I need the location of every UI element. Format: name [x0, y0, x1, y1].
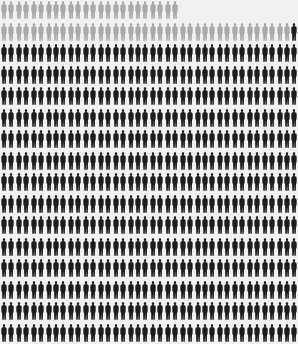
black-person-icon: [83, 238, 89, 256]
black-person-icon: [120, 324, 126, 342]
black-person-icon: [165, 238, 171, 256]
black-person-icon: [150, 66, 156, 84]
black-person-icon: [195, 66, 201, 84]
black-person-icon: [105, 259, 111, 277]
black-person-icon: [172, 109, 178, 127]
black-person-icon: [46, 216, 52, 234]
black-person-icon: [38, 173, 44, 191]
black-person-icon: [247, 130, 253, 148]
black-person-icon: [113, 109, 119, 127]
black-person-icon: [53, 238, 59, 256]
black-person-icon: [232, 238, 238, 256]
black-person-icon: [16, 302, 22, 320]
black-person-icon: [277, 152, 283, 170]
black-person-icon: [31, 281, 37, 299]
black-person-icon: [142, 216, 148, 234]
gray-person-icon: [232, 23, 238, 41]
gray-person-icon: [60, 23, 66, 41]
black-person-icon: [239, 324, 245, 342]
gray-person-icon: [68, 23, 74, 41]
black-person-icon: [46, 195, 52, 213]
black-person-icon: [277, 195, 283, 213]
black-person-icon: [165, 152, 171, 170]
black-person-icon: [150, 281, 156, 299]
black-person-icon: [269, 130, 275, 148]
black-person-icon: [75, 216, 81, 234]
black-person-icon: [142, 195, 148, 213]
black-person-icon: [38, 87, 44, 105]
black-person-icon: [224, 281, 230, 299]
black-person-icon: [142, 238, 148, 256]
gray-person-icon: [224, 23, 230, 41]
black-person-icon: [23, 281, 29, 299]
black-person-icon: [217, 238, 223, 256]
black-person-icon: [157, 281, 163, 299]
black-person-icon: [1, 195, 7, 213]
black-person-icon: [202, 216, 208, 234]
gray-person-icon: [38, 23, 44, 41]
black-person-icon: [195, 281, 201, 299]
black-person-icon: [16, 281, 22, 299]
black-person-icon: [1, 109, 7, 127]
gray-person-icon: [83, 23, 89, 41]
black-person-icon: [68, 324, 74, 342]
black-person-icon: [68, 173, 74, 191]
gray-person-icon: [60, 1, 66, 19]
black-person-icon: [209, 109, 215, 127]
gray-person-icon: [239, 23, 245, 41]
black-person-icon: [38, 109, 44, 127]
black-person-icon: [269, 195, 275, 213]
gray-person-icon: [254, 23, 260, 41]
black-person-icon: [23, 66, 29, 84]
black-person-icon: [232, 87, 238, 105]
black-person-icon: [113, 66, 119, 84]
black-person-icon: [38, 259, 44, 277]
black-person-icon: [269, 281, 275, 299]
black-person-icon: [232, 109, 238, 127]
black-person-icon: [165, 195, 171, 213]
black-person-icon: [83, 281, 89, 299]
black-person-icon: [262, 281, 268, 299]
black-person-icon: [217, 302, 223, 320]
gray-person-icon: [135, 23, 141, 41]
black-person-icon: [202, 87, 208, 105]
black-person-icon: [150, 109, 156, 127]
black-person-icon: [202, 302, 208, 320]
black-person-icon: [195, 195, 201, 213]
black-person-icon: [16, 216, 22, 234]
black-person-icon: [83, 195, 89, 213]
black-person-icon: [113, 44, 119, 62]
black-person-icon: [68, 281, 74, 299]
black-person-icon: [209, 281, 215, 299]
black-person-icon: [254, 281, 260, 299]
black-person-icon: [75, 130, 81, 148]
black-person-icon: [172, 259, 178, 277]
black-person-icon: [202, 173, 208, 191]
black-person-icon: [180, 195, 186, 213]
black-person-icon: [195, 238, 201, 256]
gray-person-icon: [8, 23, 14, 41]
black-person-icon: [1, 238, 7, 256]
black-person-icon: [247, 66, 253, 84]
gray-person-icon: [120, 23, 126, 41]
black-person-icon: [60, 216, 66, 234]
black-person-icon: [172, 66, 178, 84]
black-person-icon: [120, 173, 126, 191]
black-person-icon: [8, 44, 14, 62]
gray-person-icon: [90, 1, 96, 19]
black-person-icon: [46, 238, 52, 256]
black-person-icon: [254, 152, 260, 170]
black-person-icon: [135, 109, 141, 127]
black-person-icon: [247, 109, 253, 127]
black-person-icon: [16, 44, 22, 62]
black-person-icon: [247, 216, 253, 234]
black-person-icon: [157, 66, 163, 84]
black-person-icon: [269, 238, 275, 256]
black-person-icon: [23, 44, 29, 62]
black-person-icon: [75, 195, 81, 213]
black-person-icon: [277, 87, 283, 105]
black-person-icon: [128, 259, 134, 277]
black-person-icon: [120, 195, 126, 213]
black-person-icon: [209, 152, 215, 170]
gray-person-icon: [172, 23, 178, 41]
